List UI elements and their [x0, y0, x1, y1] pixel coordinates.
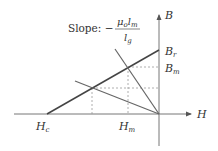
- load-line-steep: [115, 49, 159, 114]
- slope-prefix: Slope: −: [68, 22, 113, 34]
- svg-text:μolm: μolm: [117, 16, 138, 29]
- br-label: Br: [164, 45, 177, 59]
- hc-label: Hc: [35, 120, 50, 134]
- b-axis-label: B: [164, 9, 173, 22]
- demagnetization-curve: [47, 50, 159, 114]
- bm-label: Bm: [164, 62, 180, 76]
- slope-fraction: μolm lg: [115, 16, 140, 45]
- bh-diagram: Slope: − μolm lg B H Br Bm Hc Hm: [0, 0, 218, 151]
- hm-label: Hm: [118, 120, 136, 134]
- h-axis-label: H: [196, 108, 207, 121]
- load-line-shallow: [75, 81, 159, 114]
- svg-text:lg: lg: [124, 32, 132, 45]
